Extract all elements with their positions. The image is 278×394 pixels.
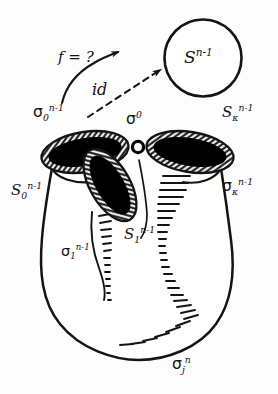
sphere-label-sup: n-1	[196, 46, 213, 58]
s-sub: 0	[21, 190, 27, 201]
sigma-sub: j	[182, 364, 185, 375]
s-sup: n-1	[238, 102, 253, 113]
s-sub: κ	[232, 112, 238, 123]
sigma-sup: n-1	[49, 102, 64, 113]
id-arrow-label-text: id	[92, 80, 107, 99]
sigma-glyph: σ	[126, 110, 136, 128]
label-sigma-j-n: σjn	[172, 355, 191, 374]
sigma-sup: n	[185, 354, 191, 365]
s-glyph: S	[124, 225, 134, 243]
sigma-glyph: σ	[222, 177, 232, 195]
f-arrow-label-text: f = ?	[58, 48, 94, 66]
sigma-sub: κ	[232, 186, 238, 197]
central-vertex	[133, 142, 142, 151]
s-glyph: S	[222, 103, 232, 121]
sigma-sup: n-1	[76, 242, 90, 252]
s-sup: n-1	[27, 180, 42, 191]
sphere-label-base: S	[184, 47, 196, 67]
sigma-sub: 0	[43, 112, 49, 123]
central-vertex-group	[131, 140, 145, 154]
sigma-glyph: σ	[172, 355, 182, 373]
s-glyph: S	[11, 181, 21, 199]
label-S-kappa-n-1: Sκn-1	[222, 103, 253, 122]
s-sup: n-1	[140, 224, 155, 235]
s-sub: 1	[134, 234, 140, 245]
sigma-glyph: σ	[61, 242, 70, 259]
sigma-glyph: σ	[33, 103, 43, 121]
sphere-label: Sn-1	[184, 47, 213, 66]
figure-canvas: Sn-1 f = ? id σ0n-1 σ0 Sκn-1 S0n-1 σκn-1…	[0, 0, 278, 394]
f-arrow-label: f = ?	[58, 50, 94, 65]
label-sigma-kappa-n-1: σκn-1	[222, 177, 253, 196]
label-sigma-0-n-1: σ0n-1	[33, 103, 64, 122]
sigma-sup: 0	[136, 109, 142, 120]
label-S-0-n-1: S0n-1	[11, 181, 42, 200]
label-sigma-0-cell: σ0	[126, 110, 142, 128]
label-sigma-1-n-1: σ1n-1	[61, 243, 90, 261]
sigma-sub: 1	[70, 251, 76, 261]
label-S-1-n-1: S1n-1	[124, 225, 155, 244]
id-arrow-label: id	[92, 82, 107, 98]
sigma-sup: n-1	[238, 176, 253, 187]
